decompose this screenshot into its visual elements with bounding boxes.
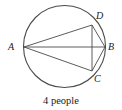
geometry-figure: A B C D 4 people	[0, 0, 122, 110]
vertex-label-a: A	[8, 42, 14, 52]
figure-caption: 4 people	[0, 95, 122, 107]
vertex-label-d: D	[96, 11, 103, 21]
vertex-label-c: C	[94, 74, 101, 84]
chord-D-B	[92, 25, 105, 47]
circle-diagram	[0, 0, 122, 110]
chord-A-D	[24, 25, 92, 47]
chord-A-C	[24, 47, 92, 71]
vertex-label-b: B	[108, 42, 114, 52]
